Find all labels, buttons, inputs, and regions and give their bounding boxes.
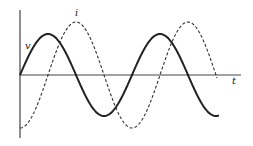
sine-wave-diagram: v i t xyxy=(0,0,253,146)
current-label: i xyxy=(75,7,78,18)
time-label: t xyxy=(232,75,237,86)
voltage-label: v xyxy=(25,40,31,51)
